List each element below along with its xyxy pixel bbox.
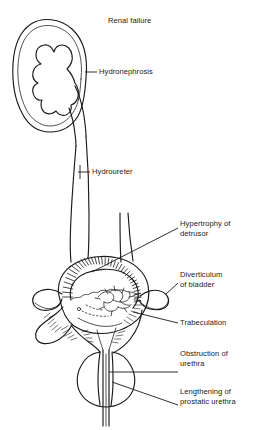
left-bladder-diverticulum [33,289,62,310]
label-trabeculation: Trabeculation [180,318,226,328]
dilated-ureter [70,136,89,262]
label-hypertrophy-of-detrusor: Hypertrophy of detrusor [180,219,231,238]
label-hydronephrosis: Hydronephrosis [99,67,153,77]
leader-lengthening [112,382,178,405]
leader-diverticulum [166,283,178,294]
label-diverticulum-of-bladder: Diverticulum of bladder [180,270,222,289]
hydronephrotic-kidney [13,20,87,132]
bladder-trabeculae [77,286,134,316]
leader-lines [78,72,178,405]
medical-diagram-figure: Renal failure Hydronephrosis Hydroureter… [0,0,258,430]
label-lengthening-of-prostatic-urethra: Lengthening of prostatic urethra [180,387,236,406]
label-renal-failure: Renal failure [108,16,151,25]
lengthened-prostatic-urethra [103,350,109,426]
right-bladder-diverticulum [139,290,169,310]
bladder-neck [97,328,116,350]
label-hydroureter: Hydroureter [92,167,133,177]
label-obstruction-of-urethra: Obstruction of urethra [180,349,228,368]
lower-left-diverticulum [35,307,72,344]
bladder-base [71,310,142,353]
